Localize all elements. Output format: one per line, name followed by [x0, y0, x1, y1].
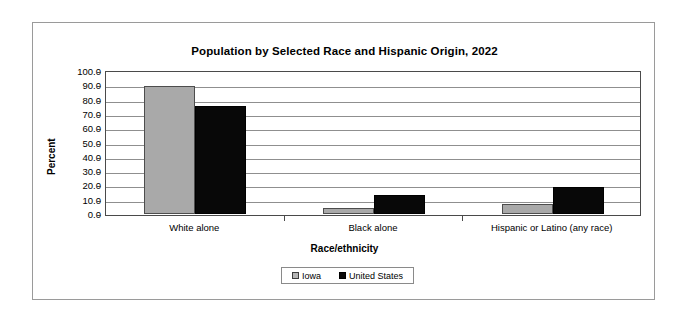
y-axis-tick-label: 10.0 [59, 195, 101, 206]
x-axis-category-label: Hispanic or Latino (any race) [462, 222, 641, 233]
legend-item-label: United States [349, 271, 403, 281]
legend-item-iowa[interactable]: Iowa [292, 271, 321, 281]
bar-iowa[interactable] [502, 204, 553, 214]
x-axis-tick-mark [462, 216, 463, 221]
bar-united-states[interactable] [374, 195, 425, 214]
chart-legend: IowaUnited States [281, 267, 414, 284]
y-axis-tick-label: 0.0 [59, 209, 101, 220]
y-axis-tick-mark [97, 72, 101, 73]
bar-group [502, 71, 604, 214]
legend-swatch-icon [339, 272, 346, 279]
bar-united-states[interactable] [553, 187, 604, 214]
legend-swatch-icon [292, 272, 299, 279]
plot-wrapper [105, 71, 641, 216]
bar-group [144, 71, 246, 214]
x-axis-title: Race/ethnicity [33, 243, 656, 254]
y-axis-tick-mark [97, 158, 101, 159]
y-axis-tick-label: 30.0 [59, 166, 101, 177]
x-axis-category-label: White alone [105, 222, 284, 233]
y-axis-tick-mark [97, 86, 101, 87]
y-axis-tick-mark [97, 101, 101, 102]
y-axis-tick-mark [97, 186, 101, 187]
y-axis-tick-label: 50.0 [59, 138, 101, 149]
y-axis-tick-mark [97, 201, 101, 202]
legend-item-united-states[interactable]: United States [339, 271, 403, 281]
y-axis-tick-mark [97, 115, 101, 116]
bar-iowa[interactable] [323, 208, 374, 214]
bar-group [323, 71, 425, 214]
y-axis-tick-label: 80.0 [59, 95, 101, 106]
y-axis-tick-mark [97, 215, 101, 216]
x-axis-tick-mark [284, 216, 285, 221]
plot-area [105, 71, 641, 216]
y-axis-tick-mark [97, 172, 101, 173]
y-axis-tick-mark [97, 129, 101, 130]
legend-item-label: Iowa [302, 271, 321, 281]
y-axis-tick-label: 40.0 [59, 152, 101, 163]
chart-title: Population by Selected Race and Hispanic… [33, 45, 656, 57]
y-axis-tick-label: 90.0 [59, 80, 101, 91]
chart-figure-frame: Population by Selected Race and Hispanic… [32, 22, 655, 300]
y-axis-tick-label: 100.0 [59, 66, 101, 77]
y-axis-tick-label: 70.0 [59, 109, 101, 120]
bar-united-states[interactable] [195, 106, 246, 214]
y-axis-tick-mark [97, 144, 101, 145]
y-axis-tick-label: 20.0 [59, 180, 101, 191]
y-axis-tick-column: 100.090.080.070.060.050.040.030.020.010.… [53, 71, 101, 216]
bar-iowa[interactable] [144, 86, 195, 214]
y-axis-tick-label: 60.0 [59, 123, 101, 134]
x-axis-category-label: Black alone [284, 222, 463, 233]
